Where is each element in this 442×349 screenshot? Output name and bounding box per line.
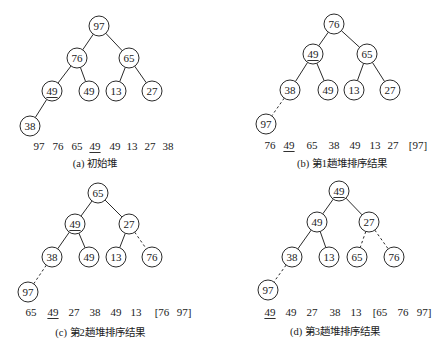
tree-node: 76 bbox=[384, 247, 404, 267]
panel-d: 49492738136576974949273813[657697](d) 第3… bbox=[258, 181, 431, 338]
array-element: 13 bbox=[131, 306, 143, 318]
array-sequence: 654927384913[7697] bbox=[26, 306, 192, 319]
array-element: 27 bbox=[69, 306, 81, 318]
tree-edge bbox=[320, 232, 326, 248]
dashed-edge bbox=[272, 98, 284, 116]
node-label: 13 bbox=[324, 251, 336, 263]
array-element: 97] bbox=[417, 306, 432, 318]
array-element: [65 bbox=[373, 306, 388, 318]
node-label: 13 bbox=[349, 84, 361, 96]
node-label: 49 bbox=[47, 85, 59, 97]
tree-node: 27 bbox=[359, 212, 379, 232]
node-label: 76 bbox=[329, 18, 341, 30]
tree-node: 49 bbox=[65, 214, 85, 234]
tree-node: 49 bbox=[42, 81, 62, 101]
node-label: 49 bbox=[84, 251, 96, 263]
array-element: 65 bbox=[72, 140, 84, 152]
tree-node: 97 bbox=[89, 16, 109, 36]
tree-edge bbox=[317, 63, 324, 81]
tree-edge bbox=[105, 200, 122, 217]
array-element: 38 bbox=[329, 139, 341, 151]
node-label: 76 bbox=[389, 251, 401, 263]
tree-node: 65 bbox=[119, 48, 139, 68]
panel-caption: (c) 第2趟堆排序结果 bbox=[55, 326, 146, 339]
tree-edge bbox=[106, 33, 122, 50]
tree-node: 13 bbox=[319, 247, 339, 267]
dashed-edge bbox=[375, 230, 388, 249]
tree-edge bbox=[372, 62, 384, 81]
tree-edge bbox=[58, 66, 71, 83]
node-label: 65 bbox=[362, 48, 374, 60]
tree-node: 49 bbox=[307, 212, 327, 232]
tree-nodes: 6549273849137697 bbox=[18, 183, 162, 302]
tree-edge bbox=[81, 201, 92, 216]
array-element: 49 bbox=[111, 306, 123, 318]
array-element: 97 bbox=[34, 140, 46, 152]
tree-node: 38 bbox=[20, 116, 40, 136]
tree-edge bbox=[319, 32, 329, 46]
tree-node: 38 bbox=[42, 247, 62, 267]
array-element: 38 bbox=[90, 306, 102, 318]
tree-edge bbox=[120, 233, 126, 247]
array-element: 13 bbox=[370, 139, 382, 151]
tree-edge bbox=[79, 233, 85, 248]
node-label: 97 bbox=[94, 20, 106, 32]
node-label: 49 bbox=[312, 216, 324, 228]
node-label: 65 bbox=[352, 251, 364, 263]
node-label: 38 bbox=[47, 251, 59, 263]
tree-nodes: 9776654949132738 bbox=[20, 16, 162, 136]
tree-edge bbox=[346, 198, 362, 215]
array-element: [97] bbox=[409, 139, 427, 151]
array-element: 97] bbox=[177, 306, 192, 318]
array-element: [76 bbox=[155, 306, 170, 318]
array-element: 65 bbox=[26, 306, 38, 318]
tree-node: 97 bbox=[258, 280, 278, 300]
tree-node: 13 bbox=[344, 80, 364, 100]
tree-node: 49 bbox=[318, 80, 338, 100]
array-sequence: 9776654949132738 bbox=[34, 140, 175, 153]
tree-node: 13 bbox=[106, 81, 126, 101]
tree-edge bbox=[341, 31, 359, 48]
tree-node: 27 bbox=[380, 80, 400, 100]
tree-node: 38 bbox=[280, 80, 300, 100]
tree-edges bbox=[34, 200, 147, 284]
node-label: 65 bbox=[124, 52, 136, 64]
node-label: 49 bbox=[323, 84, 335, 96]
node-label: 76 bbox=[147, 251, 159, 263]
node-label: 38 bbox=[285, 84, 297, 96]
tree-edges bbox=[272, 31, 385, 116]
panel-caption: (b) 第1趟堆排序结果 bbox=[297, 157, 388, 170]
tree-edge bbox=[295, 62, 307, 81]
panels-root: 97766549491327389776654949132738(a) 初始堆7… bbox=[18, 14, 431, 339]
panel-a: 97766549491327389776654949132738(a) 初始堆 bbox=[20, 16, 174, 170]
tree-node: 49 bbox=[303, 44, 323, 64]
array-element: 49 bbox=[90, 140, 102, 152]
array-element: 49 bbox=[350, 139, 362, 151]
node-label: 65 bbox=[93, 187, 105, 199]
node-label: 27 bbox=[124, 218, 136, 230]
array-element: 27 bbox=[388, 139, 400, 151]
tree-nodes: 4949273813657697 bbox=[258, 181, 404, 300]
node-label: 49 bbox=[70, 218, 82, 230]
tree-node: 76 bbox=[324, 14, 344, 34]
tree-node: 38 bbox=[282, 247, 302, 267]
node-label: 38 bbox=[287, 251, 299, 263]
tree-node: 65 bbox=[357, 44, 377, 64]
tree-node: 76 bbox=[67, 48, 87, 68]
node-label: 13 bbox=[111, 251, 123, 263]
tree-node: 65 bbox=[88, 183, 108, 203]
array-element: 49 bbox=[284, 139, 296, 151]
array-element: 13 bbox=[127, 140, 139, 152]
tree-node: 13 bbox=[106, 247, 126, 267]
node-label: 27 bbox=[385, 84, 397, 96]
tree-edge bbox=[35, 100, 46, 118]
tree-node: 27 bbox=[142, 81, 162, 101]
node-label: 97 bbox=[261, 118, 273, 130]
node-label: 49 bbox=[334, 185, 346, 197]
panel-caption: (a) 初始堆 bbox=[73, 157, 117, 170]
tree-edge bbox=[298, 230, 311, 249]
array-element: 13 bbox=[351, 306, 363, 318]
panel-caption: (d) 第3趟堆排序结果 bbox=[290, 325, 381, 338]
tree-nodes: 7649653849132797 bbox=[256, 14, 400, 134]
tree-node: 49 bbox=[329, 181, 349, 201]
